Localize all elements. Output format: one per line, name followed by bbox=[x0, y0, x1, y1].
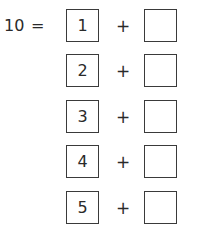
addend-box: 5 bbox=[66, 191, 99, 224]
addend-box: 3 bbox=[66, 100, 99, 133]
answer-box[interactable] bbox=[144, 191, 177, 224]
addend-box: 2 bbox=[66, 54, 99, 87]
plus-sign: + bbox=[116, 195, 130, 221]
equation-row-5: 5 + bbox=[0, 191, 211, 225]
addend-box: 1 bbox=[66, 9, 99, 42]
answer-box[interactable] bbox=[144, 145, 177, 178]
equation-row-2: 2 + bbox=[0, 54, 211, 88]
equation-row-3: 3 + bbox=[0, 100, 211, 134]
equation-row-1: 1 + bbox=[0, 9, 211, 43]
answer-box[interactable] bbox=[144, 100, 177, 133]
plus-sign: + bbox=[116, 104, 130, 130]
answer-box[interactable] bbox=[144, 9, 177, 42]
plus-sign: + bbox=[116, 13, 130, 39]
answer-box[interactable] bbox=[144, 54, 177, 87]
plus-sign: + bbox=[116, 58, 130, 84]
equation-row-4: 4 + bbox=[0, 145, 211, 179]
plus-sign: + bbox=[116, 149, 130, 175]
addend-box: 4 bbox=[66, 145, 99, 178]
